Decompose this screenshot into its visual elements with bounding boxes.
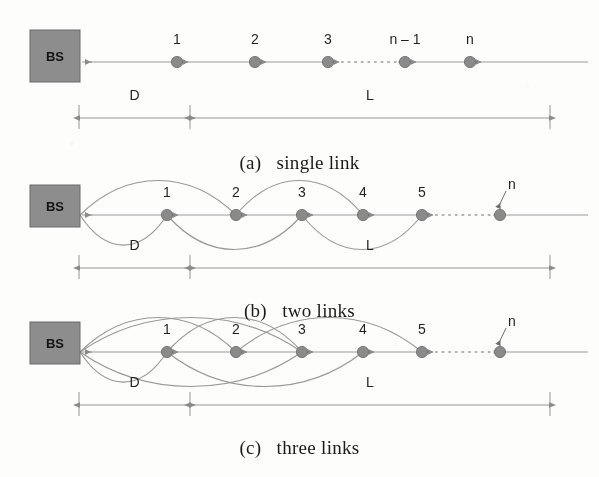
panel-caption-c: (c) three links <box>0 437 599 459</box>
dim-label-d-a: D <box>129 87 139 103</box>
node-label-c-1: 2 <box>232 321 240 337</box>
node-label-b-5: n <box>508 176 516 192</box>
node-dot-c-5 <box>494 346 505 357</box>
node-label-c-3: 4 <box>359 321 367 337</box>
node-dot-b-2 <box>296 209 307 220</box>
node-dot-c-1 <box>230 346 241 357</box>
node-label-a-1: 2 <box>251 31 259 47</box>
node-label-a-3: n – 1 <box>389 31 420 47</box>
node-label-b-0: 1 <box>163 184 171 200</box>
node-dot-c-2 <box>296 346 307 357</box>
node-dot-b-0 <box>161 209 172 220</box>
node-label-a-4: n <box>466 31 474 47</box>
dim-label-d-c: D <box>129 374 139 390</box>
node-leader-arrow-b <box>498 191 506 208</box>
link-arc-above-0 <box>80 181 236 216</box>
panel-b: BS12345nDL <box>30 176 588 279</box>
panel-a: BS123n – 1nDL <box>30 30 588 129</box>
node-dot-c-0 <box>161 346 172 357</box>
node-label-a-2: 3 <box>324 31 332 47</box>
bs-label-b: BS <box>46 199 64 214</box>
dim-label-l-c: L <box>366 374 374 390</box>
bs-label-a: BS <box>46 49 64 64</box>
node-label-c-0: 1 <box>163 321 171 337</box>
node-dot-a-1 <box>249 56 260 67</box>
node-dot-a-3 <box>399 56 410 67</box>
panel-caption-b: (b) two links <box>0 300 599 322</box>
dim-label-l-b: L <box>366 237 374 253</box>
node-dot-b-5 <box>494 209 505 220</box>
node-label-b-1: 2 <box>232 184 240 200</box>
link-arc-below-0 <box>80 352 167 382</box>
node-dot-c-4 <box>416 346 427 357</box>
link-arc-below-0 <box>80 215 167 245</box>
node-dot-b-3 <box>357 209 368 220</box>
node-dot-b-4 <box>416 209 427 220</box>
network-topology-figure: BS123n – 1nDLBS12345nDLBS12345nDL <box>0 0 599 477</box>
node-label-b-2: 3 <box>298 184 306 200</box>
link-arc-above-2 <box>236 318 422 353</box>
node-dot-a-2 <box>322 56 333 67</box>
bs-label-c: BS <box>46 336 64 351</box>
node-dot-b-1 <box>230 209 241 220</box>
dim-label-l-a: L <box>366 87 374 103</box>
link-arc-below-2 <box>80 352 302 387</box>
dim-label-d-b: D <box>129 237 139 253</box>
panel-c: BS12345nDL <box>30 313 588 416</box>
node-dot-c-3 <box>357 346 368 357</box>
node-label-a-0: 1 <box>173 31 181 47</box>
node-label-b-4: 5 <box>418 184 426 200</box>
link-arc-above-0 <box>80 318 236 353</box>
node-dot-a-4 <box>464 56 475 67</box>
node-label-b-3: 4 <box>359 184 367 200</box>
node-dot-a-0 <box>171 56 182 67</box>
node-label-c-4: 5 <box>418 321 426 337</box>
node-leader-arrow-c <box>498 328 506 345</box>
panel-caption-a: (a) single link <box>0 152 599 174</box>
node-label-c-2: 3 <box>298 321 306 337</box>
link-arc-below-1 <box>167 352 363 387</box>
panel-group: BS123n – 1nDLBS12345nDLBS12345nDL <box>30 30 588 416</box>
